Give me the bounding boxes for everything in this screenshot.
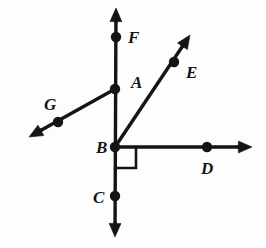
point-label-e: E xyxy=(185,63,197,82)
point-dot-g xyxy=(53,117,63,127)
point-label-c: C xyxy=(93,188,105,207)
geometry-diagram: FAEGBDC xyxy=(0,0,266,248)
point-dot-c xyxy=(110,191,120,201)
point-dot-f xyxy=(111,32,121,42)
point-label-d: D xyxy=(200,159,213,178)
point-dot-a xyxy=(110,84,120,94)
point-dot-d xyxy=(202,142,212,152)
point-dot-e xyxy=(169,57,179,67)
point-label-g: G xyxy=(44,95,57,114)
point-label-f: F xyxy=(127,28,140,47)
point-dot-b xyxy=(110,142,120,152)
point-label-a: A xyxy=(130,73,142,92)
point-label-b: B xyxy=(95,138,107,157)
geometry-canvas: FAEGBDC xyxy=(0,0,266,248)
